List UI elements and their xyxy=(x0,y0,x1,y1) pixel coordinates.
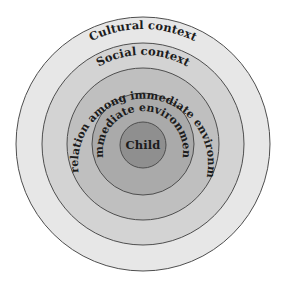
label-child: Child xyxy=(126,138,161,152)
ecological-systems-diagram: Cultural context Social context Interrel… xyxy=(0,0,281,290)
